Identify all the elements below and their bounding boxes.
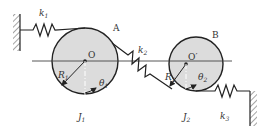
diagram-canvas: k1 A k2 B O O′ R1 R2 θ1 θ2 J1 J2 k3 (0, 0, 270, 128)
left-wall (13, 14, 20, 51)
right-wall (250, 91, 257, 126)
label-k3: k3 (220, 111, 229, 122)
label-j2: J2 (181, 112, 191, 123)
disk-b (169, 37, 223, 91)
label-j1: J1 (76, 112, 85, 123)
label-o: O (88, 50, 95, 60)
label-a: A (112, 23, 120, 33)
label-b: B (212, 30, 219, 40)
label-k2: k2 (138, 45, 147, 56)
label-k1: k1 (39, 8, 48, 19)
label-o-prime: O′ (188, 52, 197, 62)
